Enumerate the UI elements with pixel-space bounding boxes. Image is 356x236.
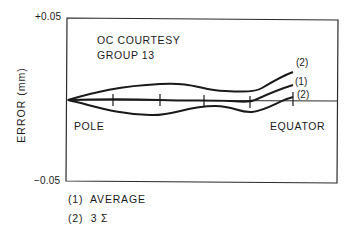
curve-average [68,85,293,102]
legend-key-1: (1) [68,193,83,205]
annotation-line-1: OC COURTESY [97,33,180,48]
x-label-equator: EQUATOR [270,119,325,134]
curve-label-lower: (2) [297,89,309,100]
annotation-source: OC COURTESY GROUP 13 [97,33,180,63]
legend-item-3sigma: (2) 3 Σ [68,212,108,224]
y-tick-top: +0.05 [35,11,61,22]
legend-label-2: 3 Σ [91,212,109,224]
y-axis-label: ERROR (mm) [15,61,27,149]
curve-label-middle: (1) [295,76,307,87]
x-label-pole: POLE [74,119,104,134]
legend-label-1: AVERAGE [90,193,146,205]
curve-label-upper: (2) [296,57,308,68]
legend-key-2: (2) [68,212,83,224]
legend-item-average: (1) AVERAGE [68,193,146,205]
y-tick-bottom: −0.05 [34,175,60,186]
annotation-line-2: GROUP 13 [97,48,180,63]
curve-3sigma-upper [68,72,293,100]
